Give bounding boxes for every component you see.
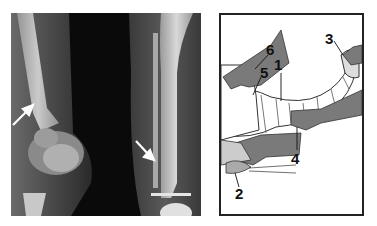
label-3: 3 [325, 31, 333, 46]
xray-image [11, 13, 201, 216]
xray-graphic [11, 13, 201, 216]
label-6: 6 [266, 42, 274, 57]
label-4: 4 [291, 151, 299, 166]
label-1: 1 [274, 57, 282, 72]
label-2: 2 [235, 186, 243, 201]
label-5: 5 [260, 65, 268, 80]
cast-diagram: 1 2 3 4 5 6 [219, 13, 364, 216]
